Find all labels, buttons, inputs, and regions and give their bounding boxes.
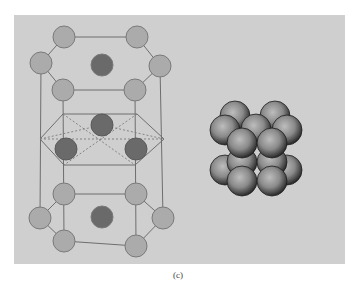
- crystal-structure-figure: [0, 0, 356, 288]
- hcp-unit-cell-diagram: [29, 26, 174, 257]
- hcp-space-filling-model: [210, 101, 302, 196]
- figure-caption: (c): [0, 270, 356, 280]
- middle-layer-atoms: [55, 114, 147, 160]
